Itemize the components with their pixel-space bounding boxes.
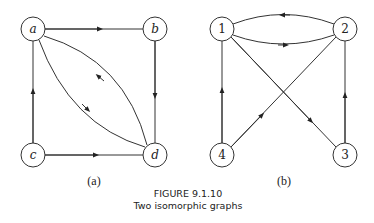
edge-a-d (39, 40, 145, 147)
node-4-label: 4 (218, 148, 226, 162)
graph-a-nodes (21, 17, 167, 167)
node-d-label: d (151, 148, 159, 162)
edge-2-1 (233, 15, 334, 25)
edge-d-a (44, 36, 147, 145)
figure-number: FIGURE 9.1.10 (154, 188, 222, 199)
subfigure-b-label: (b) (277, 174, 291, 188)
node-3-label: 3 (341, 148, 349, 162)
node-1-label: 1 (218, 22, 226, 36)
edge-1-2 (233, 35, 334, 44)
figure-title: Two isomorphic graphs (133, 200, 243, 211)
node-c-label: c (30, 148, 37, 162)
graph-a-edges (33, 29, 155, 155)
node-a-label: a (29, 22, 36, 36)
node-b-label: b (151, 22, 159, 36)
subfigure-a-label: (a) (87, 174, 100, 188)
graph-b-edges (222, 15, 345, 148)
node-2-label: 2 (341, 22, 349, 36)
figure: a b c d 1 2 3 4 (a) (b) FIGURE 9.1.10 Tw… (0, 0, 374, 223)
